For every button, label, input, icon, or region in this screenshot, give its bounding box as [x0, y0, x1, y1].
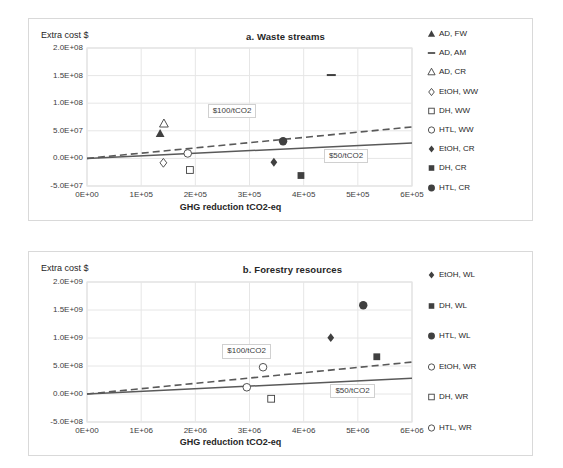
annotation-callout-50tco2: $50/tCO2 — [324, 149, 368, 163]
legend-item-label: HTL, WL — [439, 332, 471, 340]
legend-marker-diamond-filled-icon — [426, 270, 437, 280]
square-filled-icon — [426, 301, 437, 311]
annotation-callout-100tco2: $100/tCO2 — [222, 344, 271, 358]
x-tick-label: 2E+06 — [170, 426, 220, 435]
data-point-circle-filled — [279, 137, 287, 145]
x-tick-label: 0E+00 — [62, 190, 112, 199]
legend-marker-diamond-open-icon — [426, 87, 437, 97]
legend-item-label: AD, FW — [439, 30, 467, 38]
x-tick-label: 3E+05 — [225, 190, 275, 199]
chart-panel-waste-streams: a. Waste streams Extra cost $ GHG reduct… — [28, 18, 533, 221]
legend-marker-triangle-filled-icon — [426, 29, 437, 39]
y-tick-label: 1.5E+09 — [29, 305, 83, 314]
legend-item-etohww[interactable]: EtOH, WW — [426, 87, 528, 97]
diamond-filled-icon — [426, 270, 437, 280]
data-point-circle-open — [259, 363, 267, 371]
chart-legend-b: EtOH, WLDH, WLHTL, WLEtOH, WRDH, WRHTL, … — [426, 270, 528, 453]
legend-marker-triangle-open-icon — [426, 67, 437, 77]
legend-item-dhwl[interactable]: DH, WL — [426, 301, 528, 311]
diamond-open-icon — [426, 87, 437, 97]
legend-marker-square-filled-icon — [426, 163, 437, 173]
data-point-circle-open — [243, 383, 251, 391]
legend-item-label: DH, WR — [439, 393, 468, 401]
circle-filled-icon — [426, 331, 437, 341]
legend-item-etohwl[interactable]: EtOH, WL — [426, 270, 528, 280]
legend-item-label: EtOH, WW — [439, 88, 478, 96]
data-point-square-open — [429, 108, 435, 114]
legend-item-htlcr[interactable]: HTL, CR — [426, 183, 528, 193]
data-point-circle-open — [428, 363, 434, 369]
data-point-square-filled — [298, 172, 305, 179]
legend-marker-circle-filled-icon — [426, 331, 437, 341]
x-tick-label: 1E+05 — [116, 190, 166, 199]
data-point-circle-open — [428, 127, 434, 133]
data-point-square-filled — [373, 353, 380, 360]
y-tick-label: 2.0E+09 — [29, 277, 83, 286]
legend-item-label: HTL, WR — [439, 424, 472, 432]
x-tick-label: 2E+05 — [170, 190, 220, 199]
legend-marker-circle-open-icon — [426, 125, 437, 135]
legend-item-label: HTL, CR — [439, 184, 470, 192]
x-tick-label: 4E+06 — [279, 426, 329, 435]
dash-icon — [426, 48, 437, 58]
chart-legend-a: AD, FWAD, AMAD, CREtOH, WWDH, WWHTL, WWE… — [426, 29, 528, 202]
legend-item-dhww[interactable]: DH, WW — [426, 106, 528, 116]
data-point-diamond-open — [429, 88, 435, 95]
legend-item-label: AD, AM — [439, 49, 466, 57]
chart-area-b: b. Forestry resources Extra cost $ GHG r… — [29, 252, 532, 455]
chart-panel-forestry-resources: b. Forestry resources Extra cost $ GHG r… — [28, 251, 533, 456]
data-point-square-open — [268, 395, 275, 402]
legend-item-label: EtOH, WL — [439, 271, 475, 279]
legend-marker-circle-open-icon — [426, 362, 437, 372]
annotation-callout-100tco2: $100/tCO2 — [208, 104, 257, 118]
x-tick-label: 5E+06 — [333, 426, 383, 435]
legend-marker-square-filled-icon — [426, 301, 437, 311]
legend-marker-diamond-filled-icon — [426, 144, 437, 154]
data-point-square-filled — [429, 166, 435, 172]
legend-item-label: EtOH, WR — [439, 363, 476, 371]
legend-item-label: EtOH, CR — [439, 145, 475, 153]
legend-item-label: DH, WW — [439, 107, 470, 115]
legend-item-dhcr[interactable]: DH, CR — [426, 163, 528, 173]
legend-item-etohcr[interactable]: EtOH, CR — [426, 144, 528, 154]
y-tick-label: 1.5E+08 — [29, 71, 83, 80]
x-tick-label: 1E+06 — [116, 426, 166, 435]
legend-marker-square-open-icon — [426, 106, 437, 116]
data-point-triangle-filled — [428, 30, 435, 37]
x-tick-label: 5E+05 — [333, 190, 383, 199]
legend-marker-dash-icon — [426, 48, 437, 58]
x-tick-label: 4E+05 — [279, 190, 329, 199]
y-tick-label: -5.0E+07 — [29, 181, 83, 190]
data-point-square-filled — [429, 303, 435, 309]
legend-item-etohwr[interactable]: EtOH, WR — [426, 362, 528, 372]
legend-item-adfw[interactable]: AD, FW — [426, 29, 528, 39]
data-point-diamond-filled — [429, 146, 435, 153]
data-point-circle-filled — [359, 301, 367, 309]
legend-item-htlwl[interactable]: HTL, WL — [426, 331, 528, 341]
data-point-dash — [327, 74, 336, 76]
square-filled-icon — [426, 163, 437, 173]
x-tick-label: 3E+06 — [225, 426, 275, 435]
legend-item-dhwr[interactable]: DH, WR — [426, 392, 528, 402]
legend-item-htlww[interactable]: HTL, WW — [426, 125, 528, 135]
legend-item-adcr[interactable]: AD, CR — [426, 67, 528, 77]
y-tick-label: 1.0E+08 — [29, 98, 83, 107]
legend-item-adam[interactable]: AD, AM — [426, 48, 528, 58]
legend-item-htlwr[interactable]: HTL, WR — [426, 423, 528, 433]
data-point-diamond-filled — [429, 271, 435, 278]
data-point-dash — [428, 52, 435, 54]
data-point-square-open — [429, 394, 435, 400]
legend-item-label: HTL, WW — [439, 126, 474, 134]
square-open-icon — [426, 392, 437, 402]
y-tick-label: 5.0E+08 — [29, 361, 83, 370]
data-point-circle-filled — [428, 333, 435, 340]
circle-open-icon — [426, 362, 437, 372]
legend-item-label: DH, CR — [439, 164, 467, 172]
circle-open-icon — [426, 125, 437, 135]
data-point-circle-open — [184, 150, 192, 158]
y-tick-label: 0.0E+00 — [29, 389, 83, 398]
triangle-filled-icon — [426, 29, 437, 39]
annotation-callout-50tco2: $50/tCO2 — [330, 384, 374, 398]
data-point-square-open — [187, 167, 194, 174]
data-point-triangle-open — [428, 69, 435, 76]
